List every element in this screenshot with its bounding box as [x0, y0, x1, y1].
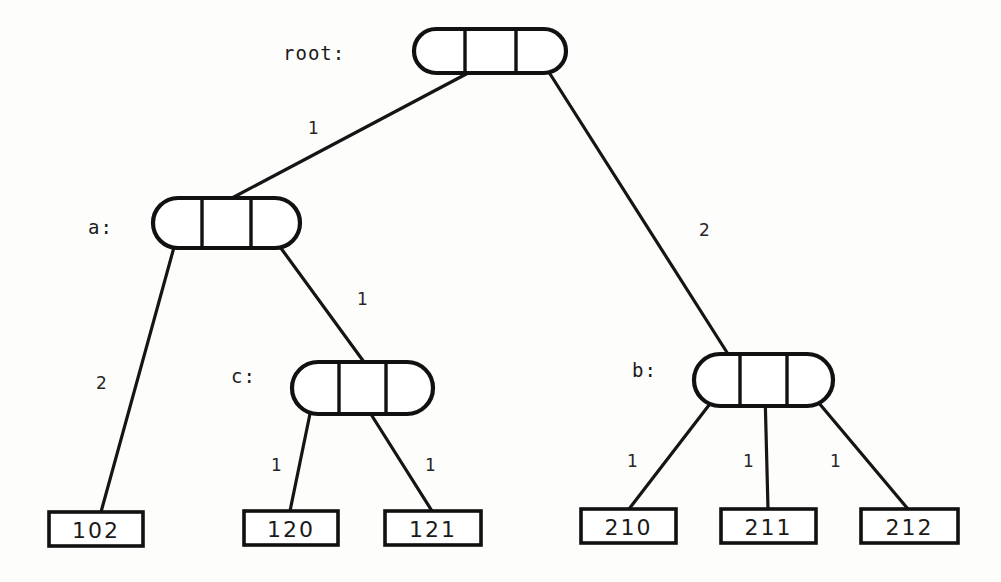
edge-c-121-line: [362, 400, 432, 511]
tree-graphics-layer: [0, 0, 1001, 582]
node-a[interactable]: [153, 198, 300, 248]
edge-label-a-102: 2: [96, 375, 107, 392]
edge-label-b-211: 1: [743, 453, 754, 470]
node-root[interactable]: [414, 29, 566, 73]
edge-b-211-line: [765, 392, 768, 509]
leaf-211-value: 211: [721, 517, 816, 539]
node-root-capsule: [414, 29, 566, 73]
edge-root-b-line: [545, 66, 728, 354]
leaf-121-value: 121: [385, 519, 481, 541]
edge-a-102-line: [101, 240, 176, 512]
node-b[interactable]: [694, 354, 833, 406]
node-label-a: a:: [88, 218, 113, 237]
leaf-box-group: [49, 509, 958, 546]
edge-label-a-c: 1: [357, 291, 368, 308]
leaf-210-value: 210: [581, 517, 676, 539]
edge-label-root-a: 1: [308, 120, 319, 137]
edge-a-c-line: [275, 240, 364, 362]
edge-label-root-b: 2: [699, 222, 710, 239]
edge-group: [101, 66, 908, 512]
edge-label-b-212: 1: [830, 453, 841, 470]
edge-c-120-line: [290, 404, 312, 511]
node-label-c: c:: [231, 367, 256, 386]
edge-b-210-line: [629, 396, 716, 509]
tree-diagram-canvas: root: a: c: b: 1 2 2 1 1 1 1 1 1 102 120…: [0, 0, 1001, 582]
node-label-root: root:: [283, 44, 345, 63]
edge-label-b-210: 1: [627, 453, 638, 470]
node-a-capsule: [153, 198, 300, 248]
node-label-b: b:: [632, 361, 657, 380]
leaf-212-value: 212: [861, 517, 958, 539]
edge-label-c-121: 1: [425, 457, 436, 474]
node-c[interactable]: [292, 362, 433, 414]
edge-label-c-120: 1: [271, 457, 282, 474]
edge-b-212-line: [813, 396, 908, 509]
edge-root-a-line: [232, 72, 470, 198]
leaf-120-value: 120: [244, 519, 338, 541]
node-b-capsule: [694, 354, 833, 406]
node-c-capsule: [292, 362, 433, 414]
leaf-102-value: 102: [49, 520, 143, 542]
